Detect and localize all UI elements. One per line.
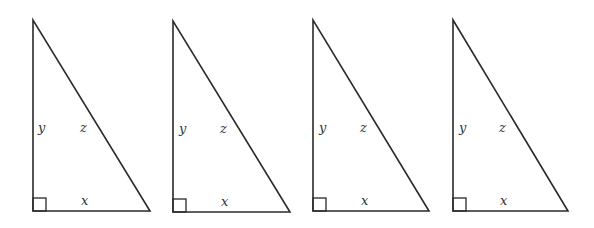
right-angle-marker <box>33 198 46 211</box>
label-z: z <box>498 120 506 135</box>
triangle-4-outline <box>453 20 568 211</box>
label-y: y <box>318 120 327 135</box>
label-y: y <box>178 121 187 136</box>
triangle-3: y z x <box>313 20 429 211</box>
triangles-figure: y z x y z x y z x y z x <box>0 0 594 228</box>
label-x: x <box>221 194 229 209</box>
label-z: z <box>359 120 367 135</box>
triangle-4: y z x <box>453 20 568 211</box>
label-y: y <box>37 120 46 135</box>
triangle-1-outline <box>33 20 150 211</box>
label-z: z <box>79 120 87 135</box>
label-z: z <box>219 121 227 136</box>
right-angle-marker <box>453 198 466 211</box>
triangle-2-outline <box>173 21 290 212</box>
label-x: x <box>81 193 89 208</box>
label-x: x <box>500 193 508 208</box>
label-y: y <box>458 120 467 135</box>
triangle-2: y z x <box>173 21 290 212</box>
triangle-1: y z x <box>33 20 150 211</box>
triangle-3-outline <box>313 20 429 211</box>
label-x: x <box>361 193 369 208</box>
right-angle-marker <box>173 199 186 212</box>
right-angle-marker <box>313 198 326 211</box>
